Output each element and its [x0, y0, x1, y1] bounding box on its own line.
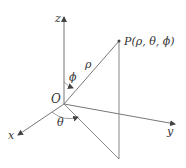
phi-label: ϕ: [69, 71, 77, 84]
theta-label: θ: [57, 116, 64, 129]
point-p: [118, 40, 121, 43]
z-axis-label: z: [54, 12, 61, 25]
x-axis-label: x: [8, 129, 15, 142]
spherical-coordinates-diagram: z y x O P(ρ, θ, ϕ) ρ ϕ θ: [0, 0, 186, 168]
rho-label: ρ: [84, 58, 92, 71]
theta-arc: [52, 112, 78, 119]
point-label: P(ρ, θ, ϕ): [123, 35, 175, 48]
y-axis-label: y: [166, 125, 174, 138]
origin-label: O: [51, 92, 61, 106]
